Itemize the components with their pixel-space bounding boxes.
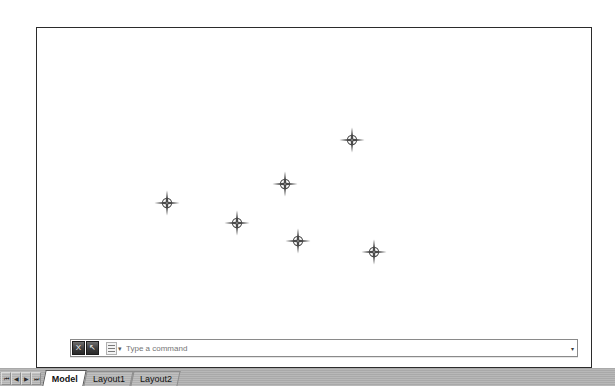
layout-tabs: ModelLayout1Layout2 [44,370,179,386]
tab-layout2[interactable]: Layout2 [130,371,180,386]
first-layout-button[interactable]: ⏮ [1,372,11,385]
point-layer [37,28,591,321]
next-layout-button[interactable]: ▶ [21,372,31,385]
layout-navigation-buttons: ⏮◀▶⏭ [0,371,42,386]
application-window: X ↖ ▾ ▾ [36,27,592,368]
point-marker[interactable] [339,127,365,153]
tab-layout1[interactable]: Layout1 [83,371,133,386]
tab-label: Layout1 [93,374,125,384]
close-icon[interactable]: X [72,341,85,355]
search-icon[interactable]: ↖ [86,341,99,355]
tab-label: Layout2 [140,374,172,384]
point-marker[interactable] [224,210,250,236]
point-marker[interactable] [154,190,180,216]
command-input[interactable] [122,341,567,355]
drawing-canvas[interactable] [37,28,591,321]
point-marker[interactable] [285,228,311,254]
previous-layout-button[interactable]: ◀ [11,372,21,385]
status-bar: ⏮◀▶⏭ ModelLayout1Layout2 [0,368,615,386]
recent-commands-icon[interactable] [106,342,117,355]
last-layout-button[interactable]: ⏭ [31,372,41,385]
command-line-bar[interactable]: X ↖ ▾ ▾ [70,339,578,357]
tab-label: Model [52,374,78,384]
command-history-dropdown-icon[interactable]: ▾ [567,340,577,356]
status-bar-filler [179,370,615,386]
tab-model[interactable]: Model [42,370,86,386]
point-marker[interactable] [361,239,387,265]
point-marker[interactable] [272,171,298,197]
